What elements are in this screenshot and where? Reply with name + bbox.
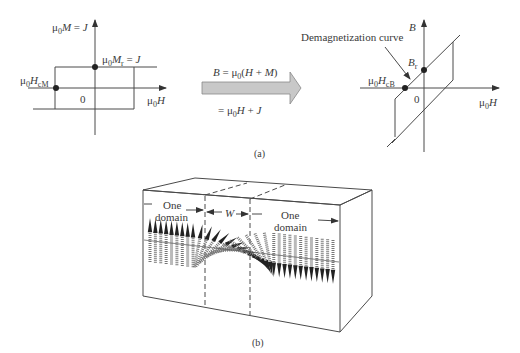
spin-arrow bbox=[159, 219, 163, 263]
formula-bottom: = μ0H + J bbox=[218, 104, 263, 119]
crystal-block: One domain W One domain bbox=[143, 178, 372, 332]
left-origin-label: 0 bbox=[80, 93, 86, 105]
block-side-face bbox=[340, 190, 372, 332]
hcb-label: μ0HcB bbox=[368, 74, 395, 89]
right-origin-label: 0 bbox=[414, 93, 420, 105]
hcb-point bbox=[402, 85, 408, 91]
br-point bbox=[421, 67, 427, 73]
demag-curve-label: Demagnetization curve bbox=[301, 31, 403, 43]
spin-arrow bbox=[315, 238, 319, 282]
right-hysteresis-plot: Demagnetization curve B Br μ0HcB 0 μ0H bbox=[301, 20, 499, 152]
wall-top-dash-1 bbox=[205, 183, 247, 195]
annotation-arrow bbox=[385, 47, 410, 79]
br-label: Br bbox=[408, 56, 418, 71]
spin-arrow bbox=[325, 239, 329, 283]
spin-arrow bbox=[164, 220, 168, 264]
left-hysteresis-plot: μ0M = J μ0Mr = J μ0HcM 0 μ0H bbox=[20, 20, 166, 135]
left-domain-label-2: domain bbox=[155, 211, 188, 223]
transform-arrow: B = μ0(H + M) = μ0H + J bbox=[202, 66, 301, 119]
spin-arrow bbox=[148, 218, 152, 262]
caption-b: (b) bbox=[252, 337, 264, 349]
caption-a: (a) bbox=[254, 148, 265, 160]
right-domain-dim-arrow bbox=[318, 220, 338, 221]
left-x-axis-label: μ0H bbox=[147, 94, 166, 109]
right-domain-label-2: domain bbox=[274, 221, 307, 233]
figure-canvas: μ0M = J μ0Mr = J μ0HcM 0 μ0H B = μ0(H + … bbox=[0, 0, 520, 353]
right-domain-label-1: One bbox=[281, 209, 299, 221]
remanence-point bbox=[92, 64, 98, 70]
spin-arrow bbox=[331, 240, 335, 284]
spin-arrows bbox=[144, 218, 339, 284]
spin-arrow bbox=[153, 219, 157, 263]
wall-width-label: W bbox=[225, 207, 235, 219]
left-remanence-label: μ0Mr = J bbox=[102, 53, 141, 68]
left-y-axis-label: μ0M = J bbox=[52, 21, 89, 36]
wall-top-dash-2 bbox=[250, 185, 285, 199]
left-coercivity-label: μ0HcM bbox=[20, 74, 49, 89]
loop-tail bbox=[387, 139, 395, 147]
left-domain-label-1: One bbox=[163, 199, 181, 211]
coercivity-point bbox=[53, 85, 59, 91]
right-y-axis-label: B bbox=[409, 21, 416, 33]
formula-top: B = μ0(H + M) bbox=[213, 66, 278, 81]
right-x-axis-label: μ0H bbox=[479, 96, 498, 111]
spin-arrow bbox=[320, 239, 324, 283]
